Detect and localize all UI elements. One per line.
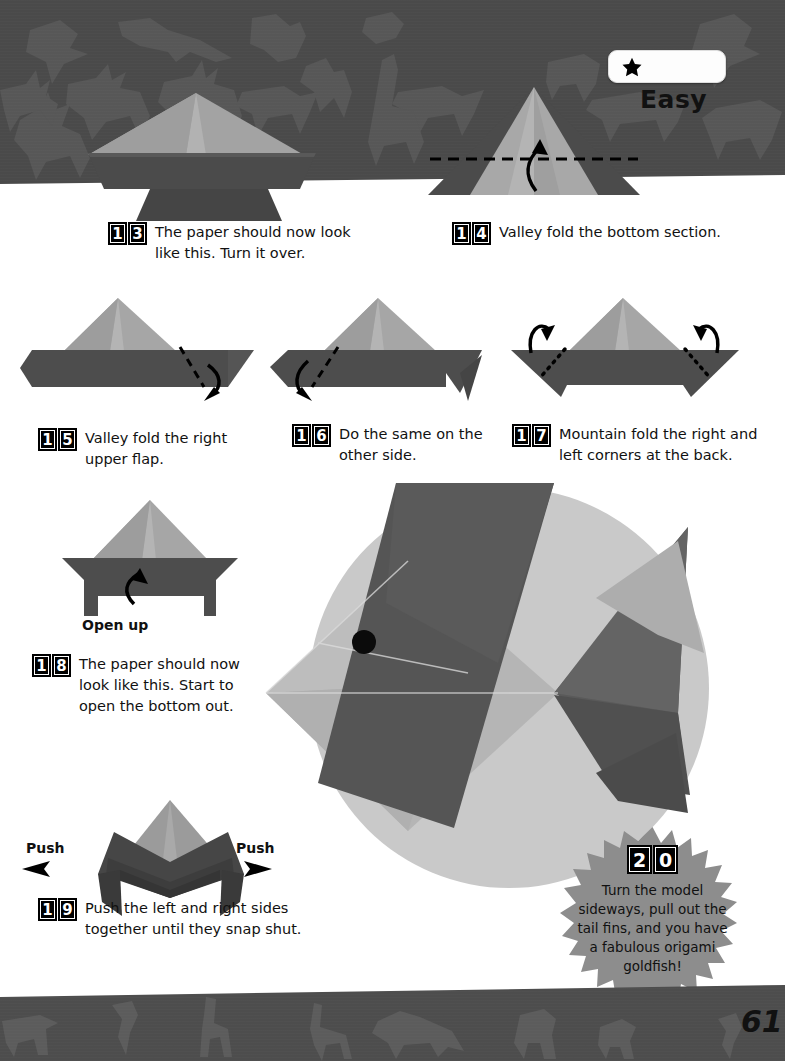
bottom-decorative-band	[0, 985, 785, 1061]
step-13-text: The paper should now look like this. Tur…	[155, 222, 351, 264]
step-digit: 1	[38, 898, 57, 921]
step-digit: 6	[312, 424, 331, 447]
step-19-number: 1 9	[38, 898, 77, 921]
step-digit: 3	[128, 222, 147, 245]
step-15-figure	[28, 295, 258, 400]
caption-line: sideways, pull out the	[545, 900, 760, 919]
caption-line: look like this. Start to	[79, 675, 240, 696]
step-16-number: 1 6	[292, 424, 331, 447]
push-arrow-left-icon	[22, 858, 62, 880]
caption-line: Valley fold the bottom section.	[499, 222, 721, 243]
step-16-caption: 1 6 Do the same on the other side.	[292, 424, 483, 466]
step-15-caption: 1 5 Valley fold the right upper flap.	[38, 428, 227, 470]
step-14-caption: 1 4 Valley fold the bottom section.	[452, 222, 721, 245]
caption-line: like this. Turn it over.	[155, 243, 351, 264]
band-texture	[0, 985, 785, 1061]
step-digit: 9	[58, 898, 77, 921]
step-18-number: 1 8	[32, 654, 71, 677]
final-step-text: Turn the model sideways, pull out the ta…	[545, 881, 760, 976]
step-digit: 4	[472, 222, 491, 245]
step-16-text: Do the same on the other side.	[339, 424, 483, 466]
step-13-caption: 1 3 The paper should now look like this.…	[108, 222, 351, 264]
caption-line: other side.	[339, 445, 483, 466]
step-digit: 7	[532, 424, 551, 447]
caption-line: tail fins, and you have	[545, 919, 760, 938]
difficulty-label: Easy	[640, 85, 760, 114]
caption-line: upper flap.	[85, 449, 227, 470]
step-15-number: 1 5	[38, 428, 77, 451]
caption-line: left corners at the back.	[559, 445, 757, 466]
step-digit: 1	[32, 654, 51, 677]
caption-line: a fabulous origami	[545, 938, 760, 957]
step-digit: 2	[627, 845, 652, 874]
caption-line: The paper should now look	[155, 222, 351, 243]
step-13-figure	[78, 93, 328, 203]
difficulty-badge[interactable]	[608, 50, 726, 83]
step-digit: 1	[108, 222, 127, 245]
caption-line: together until they snap shut.	[85, 919, 301, 940]
step-digit: 1	[512, 424, 531, 447]
step-19-text: Push the left and right sides together u…	[85, 898, 301, 940]
final-step-number: 2 0	[545, 845, 760, 874]
step-17-caption: 1 7 Mountain fold the right and left cor…	[512, 424, 757, 466]
caption-line: Valley fold the right	[85, 428, 227, 449]
step-17-text: Mountain fold the right and left corners…	[559, 424, 757, 466]
final-step-content: 2 0 Turn the model sideways, pull out th…	[545, 845, 760, 976]
origami-instruction-page: Easy 1 3	[0, 0, 785, 1061]
step-18-figure	[30, 498, 250, 618]
step-18-caption: 1 8 The paper should now look like this.…	[32, 654, 240, 717]
step-14-number: 1 4	[452, 222, 491, 245]
step-digit: 5	[58, 428, 77, 451]
step-14-figure	[424, 87, 644, 202]
step-14-text: Valley fold the bottom section.	[499, 222, 721, 243]
goldfish-eye	[352, 630, 376, 654]
caption-line: Do the same on the	[339, 424, 483, 445]
caption-line: The paper should now	[79, 654, 240, 675]
step-digit: 8	[52, 654, 71, 677]
caption-line: goldfish!	[545, 957, 760, 976]
star-icon	[621, 56, 643, 78]
step-18-text: The paper should now look like this. Sta…	[79, 654, 240, 717]
step-digit: 1	[38, 428, 57, 451]
push-left-label: Push	[26, 840, 65, 856]
step-13-number: 1 3	[108, 222, 147, 245]
step-digit: 1	[292, 424, 311, 447]
step-15-text: Valley fold the right upper flap.	[85, 428, 227, 470]
open-up-label: Open up	[82, 617, 148, 633]
caption-line: open the bottom out.	[79, 696, 240, 717]
step-16-figure	[270, 295, 500, 405]
step-17-number: 1 7	[512, 424, 551, 447]
caption-line: Turn the model	[545, 881, 760, 900]
page-number: 61	[741, 1004, 783, 1039]
step-digit: 1	[452, 222, 471, 245]
step-digit: 0	[653, 845, 678, 874]
caption-line: Mountain fold the right and	[559, 424, 757, 445]
step-17-figure	[505, 295, 755, 405]
step-19-caption: 1 9 Push the left and right sides togeth…	[38, 898, 301, 940]
